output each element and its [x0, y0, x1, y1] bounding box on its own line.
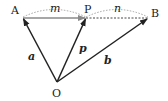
point-label-a: A — [10, 4, 20, 17]
ratio-label-m: m — [50, 2, 60, 15]
vector-label-p: p — [79, 42, 87, 55]
ratio-label-n: n — [114, 2, 121, 15]
point-label-p: P — [84, 3, 92, 16]
point-label-b: B — [151, 7, 159, 20]
point-label-o: O — [52, 87, 61, 100]
vector-label-b: b — [104, 54, 112, 67]
vector-label-a: a — [28, 50, 35, 63]
vector-diagram: A P B O m n a p b — [0, 0, 168, 101]
